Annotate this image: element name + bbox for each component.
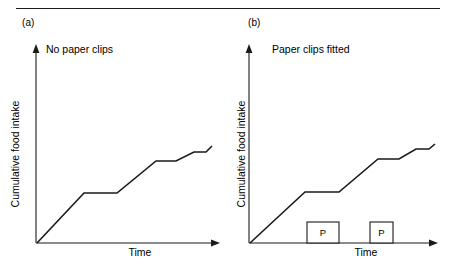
panel-a-x-axis xyxy=(36,240,220,247)
panel-b-x-axis xyxy=(249,240,438,247)
paper-clip-marker-2-label: P xyxy=(378,227,384,238)
panel-a-data-line xyxy=(37,146,212,243)
panel-a-plot xyxy=(0,0,226,267)
paper-clip-marker-1-label: P xyxy=(320,227,326,238)
paper-clip-marker-2: P xyxy=(370,222,393,243)
panel-b-y-axis xyxy=(246,44,253,243)
panel-b: (b) Paper clips fitted Cumulative food i… xyxy=(226,0,452,267)
panel-a: (a) No paper clips Cumulative food intak… xyxy=(0,0,226,267)
panel-b-data-line xyxy=(250,144,435,243)
paper-clip-marker-1: P xyxy=(307,222,339,243)
panel-b-plot: P P xyxy=(226,0,452,267)
figure-container: (a) No paper clips Cumulative food intak… xyxy=(0,0,452,267)
panel-a-y-axis xyxy=(33,44,40,243)
